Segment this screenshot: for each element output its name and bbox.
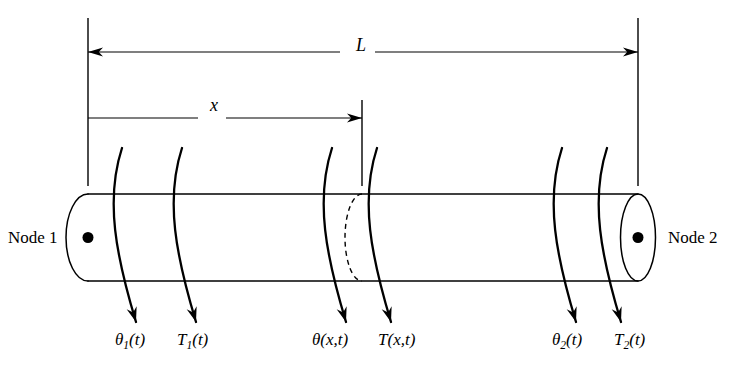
label-torque-1: T1(t) [177, 331, 208, 348]
label-theta-1: θ1(t) [115, 331, 145, 348]
torsion-arrow-theta-x [324, 148, 346, 322]
torsion-arrow-T-2 [599, 148, 621, 322]
shaft-body-group [66, 194, 656, 281]
node-1-label: Node 1 [8, 229, 58, 246]
torque-x-argument: (x,t) [387, 330, 415, 349]
cross-section-station [345, 194, 362, 281]
label-torque-2: T2(t) [614, 331, 645, 348]
torsional-shaft-figure: Node 1 Node 2 L x θ1(t) T1(t) θ(x,t) T(x… [0, 0, 748, 366]
torsion-arrow-T-x [369, 148, 391, 322]
position-dimension-label: x [210, 96, 218, 114]
torsion-arrow-theta-2 [554, 148, 576, 322]
torsion-arrow-T-1 [174, 148, 196, 322]
torsion-arrow-theta-1 [114, 148, 136, 322]
node-1-dot [83, 232, 94, 243]
dimension-lines-group [88, 52, 638, 118]
torque-1-argument: (t) [192, 330, 208, 349]
cross-section-station-arc [345, 194, 362, 281]
node-2-dot [633, 232, 644, 243]
theta-2-argument: (t) [566, 330, 582, 349]
torsion-arrows-group [114, 148, 621, 322]
figure-canvas [0, 0, 748, 366]
torque-2-argument: (t) [629, 330, 645, 349]
theta-1-argument: (t) [129, 330, 145, 349]
torque-2-subscript: 2 [623, 339, 629, 351]
theta-x-argument: (x,t) [320, 330, 348, 349]
torque-1-subscript: 1 [186, 339, 192, 351]
length-dimension-label: L [356, 36, 366, 54]
node-dots-group [83, 232, 644, 243]
label-torque-x: T(x,t) [378, 331, 415, 348]
theta-2-subscript: 2 [560, 339, 566, 351]
label-theta-x: θ(x,t) [312, 331, 348, 348]
label-theta-2: θ2(t) [552, 331, 582, 348]
node-2-label: Node 2 [668, 229, 718, 246]
theta-1-subscript: 1 [123, 339, 129, 351]
